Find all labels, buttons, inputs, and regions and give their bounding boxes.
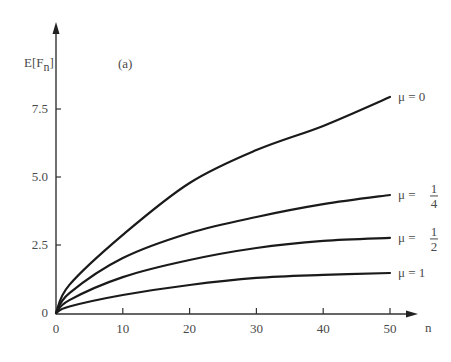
y-tick-label: 5.0	[32, 169, 48, 184]
x-axis-arrow-icon	[406, 311, 418, 318]
series-labels: μ = 0μ = 14μ = 12μ = 1	[398, 89, 438, 280]
x-ticks: 01020304050	[53, 308, 397, 336]
series-label: μ =	[398, 187, 416, 202]
x-tick-label: 30	[250, 321, 263, 336]
y-axis-label-close: ]	[50, 55, 54, 70]
y-tick-label: 7.5	[32, 101, 48, 116]
svg-text:E[Fn]: E[Fn]	[24, 55, 54, 74]
panel-label: (a)	[118, 56, 132, 71]
y-tick-label: 0	[42, 305, 49, 320]
fraction-denominator: 4	[431, 196, 438, 211]
series-label: μ = 1	[398, 265, 425, 280]
x-tick-label: 20	[183, 321, 196, 336]
series-label: μ =	[398, 230, 416, 245]
series-curve	[56, 273, 390, 313]
y-axis-label: E[Fn]	[24, 55, 54, 74]
series-label: μ = 0	[398, 89, 425, 104]
chart-container: 01020304050 02.55.07.5 μ = 0μ = 14μ = 12…	[0, 0, 451, 362]
x-tick-label: 10	[116, 321, 129, 336]
x-tick-label: 0	[53, 321, 60, 336]
y-axis-label-main: E[F	[24, 55, 44, 70]
y-tick-label: 2.5	[32, 237, 48, 252]
x-tick-label: 50	[384, 321, 397, 336]
x-tick-label: 40	[317, 321, 330, 336]
x-axis-label: n	[425, 320, 432, 335]
line-chart: 01020304050 02.55.07.5 μ = 0μ = 14μ = 12…	[0, 0, 451, 362]
y-axis-arrow-icon	[53, 22, 60, 34]
curves	[56, 97, 390, 313]
fraction-numerator: 1	[431, 224, 438, 239]
fraction-numerator: 1	[431, 181, 438, 196]
fraction-denominator: 2	[431, 239, 438, 254]
